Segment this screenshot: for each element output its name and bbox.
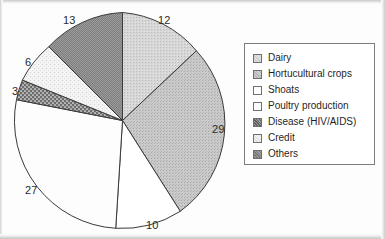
legend-label-hortucultural-crops: Hortucultural crops [268,69,352,79]
pie-slices [14,13,224,229]
legend-item-others[interactable]: Others [253,146,374,162]
legend-swatch-others [253,150,262,159]
pie-label-shoats: 10 [146,219,159,231]
legend-label-others: Others [268,149,298,159]
pie-chart-figure: 12 29 10 27 3 6 13 Dairy Hortucultural c… [0,0,385,239]
pie-label-poultry-production: 27 [25,184,38,196]
pie-slice-poultry-production [14,100,122,229]
legend-swatch-hortucultural-crops [253,70,262,79]
pie-label-credit: 6 [25,56,31,68]
legend-swatch-credit [253,134,262,143]
legend-item-dairy[interactable]: Dairy [253,50,374,66]
legend-swatch-dairy [253,54,262,63]
legend-item-hortucultural-crops[interactable]: Hortucultural crops [253,66,374,82]
chart-legend: Dairy Hortucultural crops Shoats Poultry… [244,43,375,165]
legend-label-credit: Credit [268,133,295,143]
pie-label-disease: 3 [12,85,18,97]
pie-label-others: 13 [63,14,76,26]
legend-label-disease: Disease (HIV/AIDS) [268,117,356,127]
pie-label-dairy: 12 [158,14,171,26]
legend-swatch-disease [253,118,262,127]
legend-item-shoats[interactable]: Shoats [253,82,374,98]
legend-item-credit[interactable]: Credit [253,130,374,146]
legend-label-shoats: Shoats [268,85,299,95]
pie-chart-svg [10,8,235,233]
pie-label-hortucultural-crops: 29 [212,123,225,135]
legend-swatch-shoats [253,86,262,95]
legend-label-poultry-production: Poultry production [268,101,349,111]
legend-swatch-poultry-production [253,102,262,111]
legend-item-poultry-production[interactable]: Poultry production [253,98,374,114]
legend-label-dairy: Dairy [268,53,291,63]
legend-item-disease[interactable]: Disease (HIV/AIDS) [253,114,374,130]
